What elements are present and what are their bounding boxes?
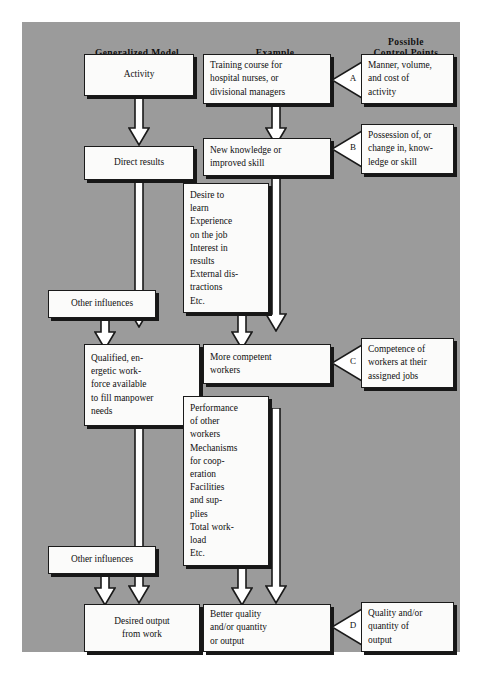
box-other-influences-1: Other influences [48, 290, 156, 318]
box-more-competent-workers-line-2: workers [210, 364, 272, 377]
box-factors-list-2-line-12: Etc. [190, 547, 262, 560]
box-control-point-d: Quality and/or quantity of output [361, 602, 454, 652]
box-new-knowledge-line-2: improved skill [210, 157, 281, 170]
box-better-quality-line-1: Better quality [210, 608, 267, 621]
box-training-course-line-1: Training course for [210, 59, 285, 72]
box-other-influences-2-label: Other influences [71, 553, 133, 566]
box-control-point-c-line-3: assigned jobs [368, 370, 427, 383]
box-factors-list-1-line-5: Interest in [190, 242, 262, 255]
box-desired-output-line-2: from work [114, 628, 169, 641]
box-direct-results: Direct results [84, 146, 194, 180]
box-factors-list-2-line-9: plies [190, 508, 262, 521]
box-training-course-line-2: hospital nurses, or [210, 72, 285, 85]
box-activity: Activity [84, 54, 194, 96]
box-control-point-b-line-2: change in, know- [368, 142, 433, 155]
control-point-letter-c-label: C [350, 356, 356, 366]
arrow-workforce-to-desired-output [128, 412, 150, 604]
box-factors-list-2-line-10: Total work- [190, 521, 262, 534]
box-control-point-d-line-3: output [368, 634, 422, 647]
box-factors-list-1-line-7: External dis- [190, 268, 262, 281]
box-control-point-a: Manner, volume, and cost of activity [361, 54, 454, 104]
box-control-point-b: Possession of, or change in, know- ledge… [361, 124, 454, 174]
box-new-knowledge: New knowledge or improved skill [203, 138, 331, 176]
box-better-quality-line-3: or output [210, 635, 267, 648]
box-workforce-line-5: needs [91, 405, 154, 418]
box-factors-list-2-line-1: Performance [190, 402, 262, 415]
box-factors-list-1-line-1: Desire to [190, 189, 262, 202]
box-control-point-a-line-2: and cost of [368, 72, 432, 85]
box-direct-results-label: Direct results [114, 156, 164, 169]
box-factors-list-1-line-4: on the job [190, 229, 262, 242]
box-factors-list-2-line-6: eration [190, 468, 262, 481]
box-factors-list-1-line-8: tractions [190, 281, 262, 294]
box-factors-list-2-line-7: Facilities [190, 481, 262, 494]
control-point-letter-c: C [347, 356, 359, 366]
diagram-canvas: Generalized Model Example Possible Contr… [22, 22, 460, 652]
control-point-letter-a: A [347, 73, 359, 83]
box-training-course: Training course for hospital nurses, or … [203, 54, 331, 104]
control-point-letter-d: D [347, 620, 359, 630]
box-activity-label: Activity [124, 68, 155, 81]
control-point-letter-a-label: A [350, 73, 357, 83]
control-point-letter-b: B [347, 142, 359, 152]
box-workforce-line-4: to fill manpower [91, 392, 154, 405]
box-control-point-c-line-2: workers at their [368, 356, 427, 369]
arrow-activity-to-direct-results [128, 96, 150, 146]
box-factors-list-2-line-2: of other [190, 415, 262, 428]
box-control-point-d-line-2: quantity of [368, 620, 422, 633]
box-better-quality-line-2: and/or quantity [210, 621, 267, 634]
box-factors-list-1: Desire to learn Experience on the job In… [183, 183, 269, 313]
box-training-course-line-3: divisional managers [210, 86, 285, 99]
box-factors-list-2-line-11: load [190, 534, 262, 547]
box-control-point-d-line-1: Quality and/or [368, 607, 422, 620]
box-factors-list-2-line-4: Mechanisms [190, 442, 262, 455]
box-desired-output: Desired output from work [84, 604, 200, 652]
box-other-influences-2: Other influences [48, 546, 156, 574]
box-factors-list-1-line-6: results [190, 255, 262, 268]
box-more-competent-workers-line-1: More competent [210, 351, 272, 364]
box-control-point-a-line-3: activity [368, 86, 432, 99]
box-better-quality: Better quality and/or quantity or output [203, 604, 331, 652]
box-more-competent-workers: More competent workers [203, 344, 331, 384]
box-factors-list-1-line-2: learn [190, 202, 262, 215]
box-workforce-line-2: ergetic work- [91, 365, 154, 378]
box-control-point-b-line-1: Possession of, or [368, 129, 433, 142]
box-factors-list-2-line-3: workers [190, 428, 262, 441]
box-factors-list-2-line-5: for coop- [190, 455, 262, 468]
box-factors-list-2: Performance of other workers Mechanisms … [183, 396, 269, 566]
box-desired-output-line-1: Desired output [114, 615, 169, 628]
box-workforce-line-1: Qualified, en- [91, 352, 154, 365]
box-factors-list-2-line-8: and sup- [190, 494, 262, 507]
box-factors-list-1-line-3: Experience [190, 215, 262, 228]
box-factors-list-1-line-9: Etc. [190, 295, 262, 308]
box-control-point-c: Competence of workers at their assigned … [361, 338, 454, 388]
box-control-point-b-line-3: ledge or skill [368, 156, 433, 169]
column-header-control-points-line1: Possible [388, 37, 424, 47]
box-workforce-line-3: force available [91, 378, 154, 391]
arrow-factors-2-to-better-quality [231, 568, 253, 606]
box-control-point-a-line-1: Manner, volume, [368, 59, 432, 72]
box-control-point-c-line-1: Competence of [368, 343, 427, 356]
box-new-knowledge-line-1: New knowledge or [210, 144, 281, 157]
box-other-influences-1-label: Other influences [71, 297, 133, 310]
control-point-letter-d-label: D [350, 620, 357, 630]
control-point-letter-b-label: B [350, 142, 356, 152]
